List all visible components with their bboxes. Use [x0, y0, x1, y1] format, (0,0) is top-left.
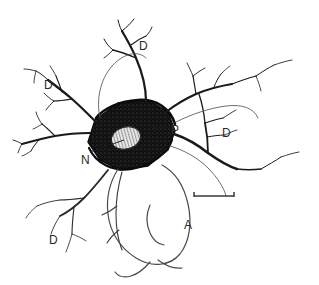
- label-dendrite-right: D: [222, 127, 231, 139]
- dendrite-upper-right: [166, 60, 292, 112]
- label-perikaryon: P: [171, 124, 179, 136]
- label-nucleus: N: [81, 154, 90, 166]
- label-dendrite-lower-left: D: [49, 234, 58, 246]
- dendrite-left: [13, 112, 90, 156]
- dendrite-top-center: [104, 19, 152, 101]
- dendrite-upper-left: [24, 66, 96, 122]
- label-axon: A: [184, 219, 192, 231]
- neuron-figure: D D D D P N A: [0, 0, 319, 285]
- label-dendrite-upper-left: D: [44, 79, 53, 91]
- label-dendrite-top: D: [139, 40, 148, 52]
- dendrite-lower-left: [26, 170, 108, 252]
- dendrite-bottom-center: [102, 172, 122, 250]
- neuron-drawing: [0, 0, 319, 285]
- scale-bar: [194, 192, 234, 197]
